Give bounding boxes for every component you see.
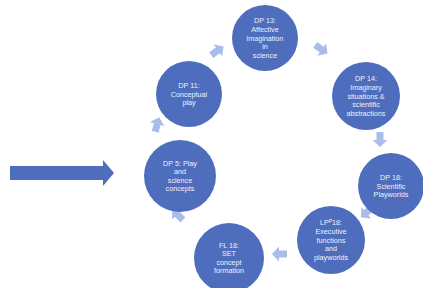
arrow-icon <box>373 132 388 147</box>
connector-arrow-dp11-dp13 <box>207 40 228 61</box>
node-label-line: concepts <box>166 184 195 193</box>
arrow-icon <box>207 40 228 61</box>
node-dp11: DP 11:Conceptualplay <box>156 61 222 127</box>
cycle-nodes: DP 13:AffectiveimaginationinscienceDP 14… <box>144 5 423 288</box>
node-label-line: play <box>182 98 196 107</box>
node-label-line: Playworlds <box>374 190 409 199</box>
entry-arrow <box>10 160 114 186</box>
connector-arrow-dp14-dp18 <box>373 132 388 147</box>
arrow-icon <box>311 39 332 60</box>
node-dp5: DP 5: Playandscienceconcepts <box>144 140 216 212</box>
connector-arrow-dp5-dp11 <box>148 115 166 133</box>
node-label-line: science <box>253 51 277 60</box>
node-dp18: DP 18:ScientificPlayworlds <box>358 153 423 219</box>
entry-arrow-shape <box>10 160 114 186</box>
node-label-line: abstractions <box>347 109 386 118</box>
node-dp14: DP 14:Imaginarysituations &scientificabs… <box>332 62 400 130</box>
node-label-line: playworlds <box>314 253 348 262</box>
connector-arrow-lp18-fl18 <box>272 247 287 262</box>
arrow-icon <box>272 247 287 262</box>
node-fl18: FL 18:SETconceptformation <box>194 223 264 288</box>
node-label-line: formation <box>214 266 244 275</box>
node-dp13: DP 13:Affectiveimaginationinscience <box>232 5 298 71</box>
arrow-icon <box>148 115 166 133</box>
connector-arrow-dp13-dp14 <box>311 39 332 60</box>
node-lp18: LPᴾ18:Executivefunctionsandplayworlds <box>297 206 365 274</box>
cycle-diagram: DP 13:AffectiveimaginationinscienceDP 14… <box>0 0 423 288</box>
